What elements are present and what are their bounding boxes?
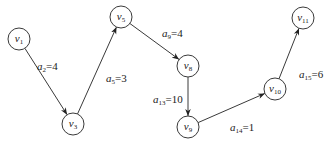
edge-v1-v3 xyxy=(25,48,67,114)
arrow-line xyxy=(279,28,299,79)
edge-v3-v5 xyxy=(78,27,117,114)
node-v1: v1 xyxy=(8,28,30,50)
arrow-line xyxy=(78,27,117,114)
edge-weight-label: a15=6 xyxy=(299,68,324,82)
node-v10: v10 xyxy=(264,78,286,100)
arrow-line xyxy=(25,48,67,114)
edge-weight-label: a5=3 xyxy=(106,72,127,86)
edge-v10-v11 xyxy=(279,28,299,79)
edge-weight-label: a14=1 xyxy=(230,121,254,135)
edge-weight-label: a13=10 xyxy=(153,93,183,107)
directed-graph: v1v3v5v8v9v10v11 a2=4a5=3a9=4a13=10a14=1… xyxy=(0,0,325,143)
edge-weight-label: a2=4 xyxy=(37,60,58,74)
edge-v9-v10 xyxy=(198,93,265,122)
edge-weight-label: a9=4 xyxy=(162,27,183,41)
node-v9: v9 xyxy=(177,116,199,138)
node-v11: v11 xyxy=(292,7,314,29)
node-v8: v8 xyxy=(177,55,199,77)
node-v3: v3 xyxy=(62,113,84,135)
arrow-line xyxy=(198,93,265,122)
node-v5: v5 xyxy=(110,6,132,28)
